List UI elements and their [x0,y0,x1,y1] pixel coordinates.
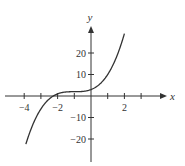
x-tick-label: 2 [122,102,127,113]
x-tick-label: −2 [52,102,63,113]
x-axis-arrow-icon [160,93,167,99]
x-axis-label: x [169,90,175,102]
y-tick-label: −20 [70,134,86,145]
y-tick-label: 10 [76,69,86,80]
y-axis-arrow-icon [88,26,94,33]
cubic-function-graph: xy−4−222010−10−20 [0,0,185,166]
y-tick-label: 20 [76,48,86,59]
y-axis-label: y [87,11,93,23]
y-tick-label: −10 [70,112,86,123]
x-tick-label: −4 [19,102,30,113]
